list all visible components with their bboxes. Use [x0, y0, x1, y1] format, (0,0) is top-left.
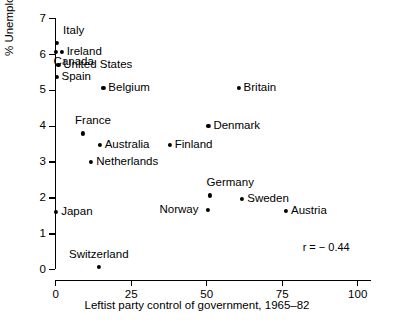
data-point-label: France — [75, 116, 111, 128]
y-tick: 0 — [49, 269, 55, 270]
data-point — [208, 193, 212, 197]
data-point — [54, 75, 58, 79]
data-point — [206, 123, 210, 127]
data-point-label: Japan — [61, 206, 92, 218]
y-tick: 4 — [49, 126, 55, 127]
data-point-label: Sweden — [247, 193, 289, 205]
x-tick: 0 — [55, 280, 56, 286]
data-point-label: Belgium — [108, 82, 150, 94]
y-tick-label: 3 — [40, 156, 46, 168]
y-tick-label: 5 — [40, 85, 46, 97]
y-tick-label: 1 — [40, 228, 46, 240]
x-axis-line — [55, 280, 371, 281]
x-tick-label: 0 — [52, 289, 58, 301]
y-tick: 7 — [49, 18, 55, 19]
data-point-label: Austria — [291, 205, 327, 217]
x-tick: 50 — [206, 280, 207, 286]
data-point — [205, 208, 209, 212]
data-point-label: Germany — [207, 178, 254, 190]
data-point-label: United States — [63, 59, 132, 71]
data-point-label: Norway — [160, 204, 199, 216]
data-point — [54, 50, 58, 54]
y-tick: 2 — [49, 197, 55, 198]
data-point — [60, 50, 64, 54]
data-point — [98, 142, 102, 146]
data-point-label: Switzerland — [69, 249, 128, 261]
data-point-label: Spain — [62, 71, 91, 83]
y-tick-label: 2 — [40, 192, 46, 204]
correlation-annotation: r = − 0.44 — [303, 242, 350, 253]
data-point — [237, 86, 241, 90]
data-point — [97, 265, 101, 269]
data-point-label: Australia — [105, 139, 150, 151]
data-point-label: Finland — [175, 139, 213, 151]
y-tick-label: 0 — [40, 264, 46, 276]
y-tick: 3 — [49, 161, 55, 162]
data-point — [89, 160, 93, 164]
data-point-label: Netherlands — [96, 156, 158, 168]
data-point-label: Britain — [244, 82, 277, 94]
data-point — [240, 197, 244, 201]
data-point — [55, 41, 59, 45]
data-point — [101, 86, 105, 90]
x-axis-title: Leftist party control of government, 196… — [0, 300, 394, 312]
scatter-plot-figure: 01234567 % Unemployed 1965–82 0255075100… — [0, 0, 394, 321]
x-tick-label: 100 — [348, 289, 367, 301]
x-tick: 75 — [282, 280, 283, 286]
x-tick: 25 — [131, 280, 132, 286]
data-point-label: Italy — [63, 25, 84, 37]
y-tick: 5 — [49, 90, 55, 91]
y-tick-label: 7 — [40, 13, 46, 25]
y-axis-title: % Unemployed 1965–82 — [4, 40, 16, 56]
data-point — [168, 142, 172, 146]
x-tick: 100 — [357, 280, 358, 286]
data-point — [284, 209, 288, 213]
data-point — [54, 210, 58, 214]
y-tick-label: 4 — [40, 121, 46, 133]
y-tick-label: 6 — [40, 49, 46, 61]
data-point — [81, 131, 85, 135]
y-tick: 1 — [49, 233, 55, 234]
data-point-label: Denmark — [213, 120, 260, 132]
